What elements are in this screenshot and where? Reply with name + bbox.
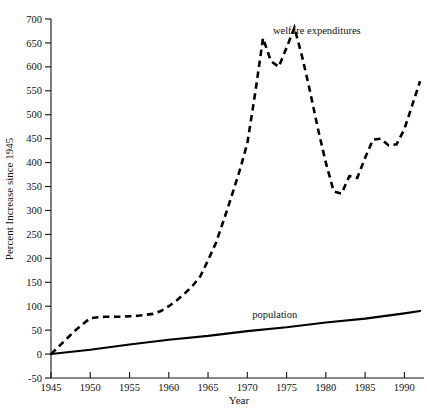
x-tick-label: 1990 [394, 382, 415, 393]
x-tick-label: 1970 [237, 382, 258, 393]
y-tick-label: 100 [26, 301, 42, 312]
y-tick-label: 250 [26, 229, 42, 240]
series-line-welfare-expenditures [51, 28, 420, 354]
y-tick-label: 700 [26, 14, 42, 25]
series-label-population: population [252, 309, 298, 320]
x-tick-label: 1945 [41, 382, 62, 393]
y-tick-label: 400 [26, 157, 42, 168]
y-tick-label: 150 [26, 277, 42, 288]
y-tick-label: 500 [26, 109, 42, 120]
y-tick-label: 0 [37, 349, 42, 360]
x-axis-ticks: 1945195019551960196519701975198019851990 [41, 372, 415, 393]
y-tick-label: 50 [32, 325, 43, 336]
x-tick-label: 1960 [158, 382, 179, 393]
y-tick-label: 200 [26, 253, 42, 264]
y-tick-label: 550 [26, 85, 42, 96]
x-tick-label: 1950 [80, 382, 101, 393]
y-tick-label: 350 [26, 181, 42, 192]
x-tick-label: 1985 [355, 382, 376, 393]
x-axis-title: Year [229, 394, 250, 406]
x-tick-label: 1975 [276, 382, 297, 393]
y-axis-title: Percent Increase since 1945 [3, 137, 15, 260]
series-label-welfare-expenditures: welfare expenditures [273, 25, 361, 36]
chart-container: -500501001502002503003504004505005506006… [0, 0, 427, 418]
x-tick-label: 1965 [198, 382, 219, 393]
y-tick-label: 450 [26, 133, 42, 144]
y-axis-ticks: -500501001502002503003504004505005506006… [26, 14, 51, 384]
x-tick-label: 1955 [119, 382, 140, 393]
line-chart: -500501001502002503003504004505005506006… [0, 0, 427, 418]
x-tick-label: 1980 [315, 382, 336, 393]
y-tick-label: 600 [26, 61, 42, 72]
y-tick-label: 300 [26, 205, 42, 216]
y-tick-label: 650 [26, 38, 42, 49]
